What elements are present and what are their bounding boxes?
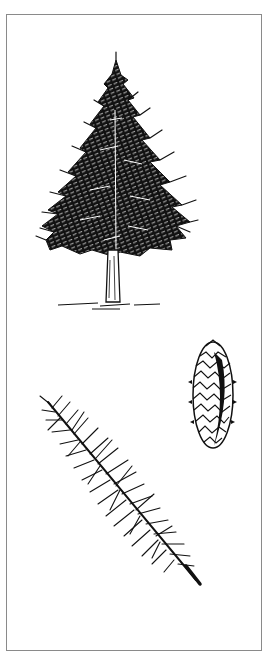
cone-illustration <box>188 340 237 448</box>
illustration-canvas <box>0 0 272 661</box>
tree-illustration <box>36 52 198 309</box>
branch-illustration <box>40 396 200 584</box>
